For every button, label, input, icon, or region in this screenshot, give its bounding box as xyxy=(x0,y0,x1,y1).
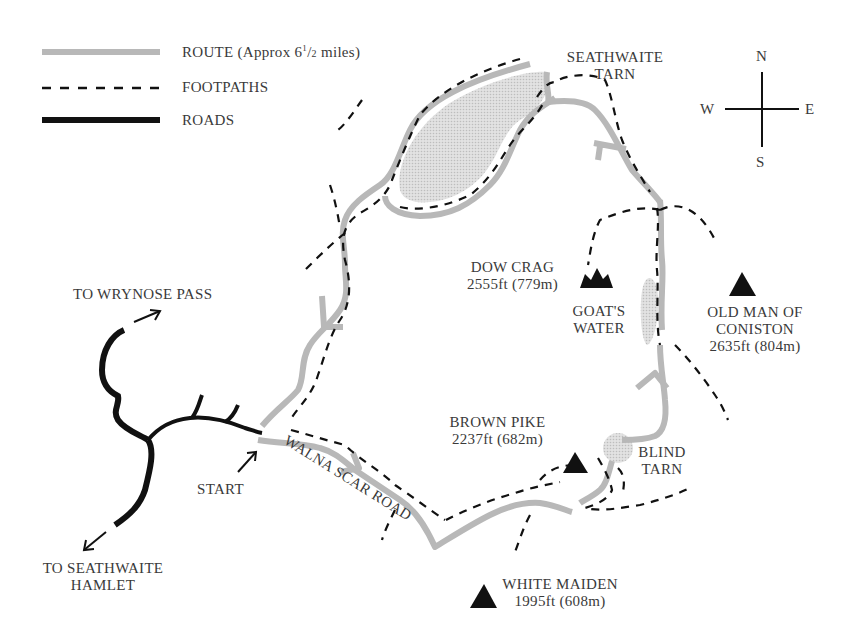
label-blind-tarn: BLINDTARN xyxy=(632,444,692,478)
label-brown-pike: BROWN PIKE2237ft (682m) xyxy=(440,414,555,448)
white-maiden-summit-icon xyxy=(470,584,497,608)
label-seathwaite-tarn: SEATHWAITETARN xyxy=(560,49,670,83)
label-start: START xyxy=(197,481,244,498)
compass-n: N xyxy=(756,48,767,65)
arrow-to-seathwaite-icon xyxy=(84,532,106,550)
dow-crag-summit-icon xyxy=(580,268,613,288)
compass-s: S xyxy=(756,154,764,171)
seathwaite-tarn-water xyxy=(399,72,548,203)
arrow-start-icon xyxy=(238,452,256,472)
legend-footpaths-label: FOOTPATHS xyxy=(182,79,268,96)
label-goats-water: GOAT'SWATER xyxy=(563,303,635,337)
compass-w: W xyxy=(700,101,714,118)
label-dow-crag: DOW CRAG2555ft (779m) xyxy=(455,259,570,293)
compass-e: E xyxy=(805,101,814,118)
goats-water xyxy=(641,278,659,345)
legend-roads-label: ROADS xyxy=(182,112,234,129)
label-to-wrynose-pass: TO WRYNOSE PASS xyxy=(73,286,212,303)
legend-route-label: ROUTE (Approx 61/2 miles) xyxy=(182,43,360,61)
brown-pike-summit-icon xyxy=(563,452,588,473)
compass-icon xyxy=(725,72,799,147)
arrow-to-wrynose-icon xyxy=(134,310,160,322)
label-white-maiden: WHITE MAIDEN1995ft (608m) xyxy=(495,576,625,610)
label-old-man-of-coniston: OLD MAN OFCONISTON2635ft (804m) xyxy=(700,304,810,355)
label-to-seathwaite-hamlet: TO SEATHWAITEHAMLET xyxy=(38,560,168,594)
old-man-of-coniston-summit-icon xyxy=(729,272,756,296)
